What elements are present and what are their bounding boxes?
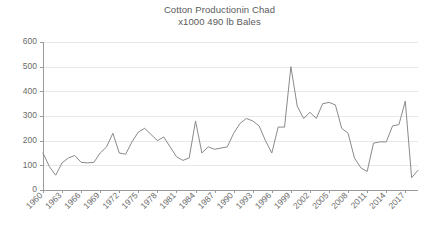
x-tick-label: 1999	[272, 190, 293, 211]
x-tick-label: 2014	[367, 190, 388, 211]
x-tick-label: 1990	[215, 190, 236, 211]
x-tick-label: 2008	[329, 190, 350, 211]
y-tick-label: 600	[23, 36, 37, 46]
gridlines-group	[43, 43, 418, 166]
chart-container: Cotton Productionin Chad x1000 490 lb Ba…	[0, 0, 439, 227]
x-tick-label: 2011	[349, 190, 369, 210]
x-tick-label: 1972	[100, 190, 121, 211]
x-tick-label: 1987	[196, 190, 217, 211]
x-tick-label: 1978	[138, 190, 159, 211]
y-tick-label: 200	[23, 135, 37, 145]
y-tick-label: 300	[23, 110, 37, 120]
x-tick-label: 1960	[24, 190, 45, 211]
x-tick-label: 2017	[386, 190, 407, 211]
x-tick-label: 1993	[234, 190, 255, 211]
x-tick-label: 1966	[62, 190, 83, 211]
x-tick-label: 1963	[43, 190, 64, 211]
line-chart-plot: 0100200300400500600 19601963196619691972…	[0, 0, 439, 227]
axis-lines	[40, 42, 418, 193]
x-tick-label: 1996	[253, 190, 274, 211]
cotton-production-line	[43, 67, 418, 178]
x-tick-label: 1969	[81, 190, 102, 211]
x-tick-label: 2005	[310, 190, 331, 211]
x-axis-tick-labels: 1960196319661969197219751978198119841987…	[24, 190, 407, 211]
y-tick-label: 100	[23, 160, 37, 170]
y-tick-label: 400	[23, 86, 37, 96]
x-tick-label: 1981	[157, 190, 178, 211]
y-tick-label: 500	[23, 61, 37, 71]
x-tick-label: 2002	[291, 190, 312, 211]
x-tick-label: 1984	[177, 190, 198, 211]
x-tick-label: 1975	[119, 190, 140, 211]
y-axis-tick-labels: 0100200300400500600	[23, 36, 37, 194]
